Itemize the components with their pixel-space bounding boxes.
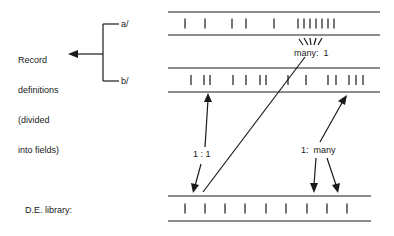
bracket-connector [76,24,119,81]
arrowhead-up-icon [204,93,212,102]
one-to-many-arrow-up [320,101,343,142]
one-to-many-arrow-down-left [314,158,316,185]
one-to-one-arrow-up [205,100,208,147]
diagonal-link-line [203,57,305,192]
de-library-bar [168,196,371,221]
many-to-one-strokes [299,38,322,45]
arrowhead-down-icon [310,183,318,193]
one-to-one-arrow-down [195,164,201,186]
arrowhead-down-icon [191,183,199,193]
de-library-label: D.E. library: [25,205,72,215]
record-definitions-label: Record definitions (divided into fields) [18,35,59,175]
record-a-bar [168,12,380,35]
record-b-bar [168,68,380,92]
arrowhead-up-icon [338,95,347,105]
one-to-one-label: 1 : 1 [193,149,211,159]
arrowhead-left-icon [68,50,78,58]
diagram-drawing [0,0,394,236]
many-to-one-label: many: 1 [294,48,329,58]
one-to-many-arrow-down-right [327,158,336,185]
branch-a-label: a/ [121,19,129,29]
branch-b-label: b/ [121,76,129,86]
arrowhead-down-icon [332,183,340,193]
data-dictionary-diagram: Record definitions (divided into fields)… [0,0,394,236]
one-to-many-label: 1: many [301,145,336,155]
